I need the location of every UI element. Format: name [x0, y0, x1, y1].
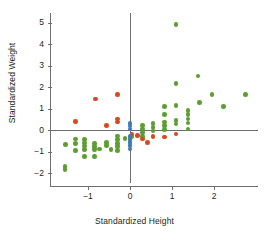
y-axis-spine: [50, 13, 51, 186]
y-tick-label: 5: [30, 18, 44, 27]
data-point-red: [73, 119, 78, 124]
x-axis-title: Standardized Height: [0, 216, 269, 226]
data-point-green: [97, 147, 102, 152]
data-point-green: [82, 147, 87, 152]
scatter-plot-figure: −1012 −2−1012345 Standardized Height Sta…: [0, 0, 269, 234]
data-point-green: [174, 81, 179, 86]
x-tick-label: 0: [120, 192, 140, 201]
data-point-green: [210, 92, 215, 97]
y-tick-label: 0: [30, 126, 44, 135]
data-point-green: [174, 103, 179, 108]
x-tick-label: 1: [162, 192, 182, 201]
x-tick-label: −1: [78, 192, 98, 201]
y-tick-label: −2: [30, 169, 44, 178]
data-point-green: [115, 148, 120, 153]
data-point-green: [109, 147, 114, 152]
data-point-green: [151, 129, 156, 134]
y-tick-label: 3: [30, 61, 44, 70]
data-point-red: [135, 133, 140, 138]
data-point-green: [162, 127, 167, 132]
data-point-green: [92, 154, 97, 159]
y-tick-label: 2: [30, 83, 44, 92]
data-point-red: [140, 137, 145, 142]
data-point-red: [162, 135, 167, 140]
data-point-green: [196, 74, 201, 79]
data-point-green: [174, 22, 179, 27]
x-axis-line: [52, 130, 258, 131]
data-point-green: [63, 167, 68, 172]
y-tick-label: 1: [30, 104, 44, 113]
data-point-red: [145, 140, 150, 145]
data-point-green: [162, 104, 167, 109]
data-point-blue: [128, 147, 133, 152]
data-point-green: [162, 112, 167, 117]
data-point-red: [115, 120, 120, 125]
data-point-green: [73, 141, 78, 146]
x-tick-label: 2: [204, 192, 224, 201]
data-point-red: [174, 132, 179, 137]
data-point-green: [174, 122, 179, 127]
data-point-red: [115, 92, 120, 97]
data-point-green: [221, 104, 226, 109]
x-axis-spine: [50, 186, 258, 187]
y-tick-label: 4: [30, 40, 44, 49]
data-point-green: [186, 121, 191, 126]
data-point-green: [92, 147, 97, 152]
data-point-green: [104, 143, 109, 148]
y-axis-title: Standardized Weight: [7, 35, 17, 131]
data-point-green: [63, 142, 68, 147]
data-point-green: [73, 148, 78, 153]
y-axis-line: [130, 13, 131, 183]
data-point-green: [82, 154, 87, 159]
y-tick-label: −1: [30, 147, 44, 156]
data-point-red: [151, 134, 156, 139]
plot-area: −1012 −2−1012345 Standardized Height Sta…: [0, 0, 269, 234]
data-point-green: [197, 100, 202, 105]
data-point-green: [123, 136, 128, 141]
data-point-green: [243, 92, 248, 97]
data-point-red: [104, 123, 109, 128]
data-point-red: [93, 97, 98, 102]
